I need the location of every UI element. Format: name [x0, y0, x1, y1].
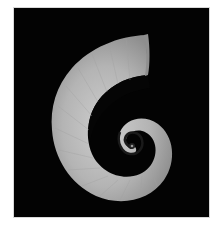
photo-panel: [14, 8, 209, 217]
shell-apex-core: [131, 145, 134, 148]
spiral-shell-image: [14, 8, 209, 217]
